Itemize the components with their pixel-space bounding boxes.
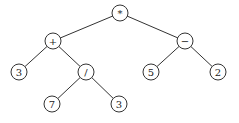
node-label: 3	[16, 67, 22, 78]
expression-tree: *+−3/5273	[0, 0, 239, 123]
tree-node: /	[78, 64, 94, 80]
tree-edge	[120, 13, 185, 41]
node-label: 2	[215, 67, 221, 78]
tree-node: 2	[210, 64, 226, 80]
node-label: 3	[116, 99, 122, 110]
tree-node: 3	[111, 96, 127, 112]
tree-edges	[19, 13, 218, 104]
node-label: 5	[148, 67, 154, 78]
tree-node: 5	[143, 64, 159, 80]
tree-nodes: *+−3/5273	[11, 5, 226, 112]
tree-node: 3	[11, 64, 27, 80]
node-label: −	[181, 36, 189, 47]
node-label: 7	[49, 99, 55, 110]
tree-node: −	[177, 33, 193, 49]
tree-node: +	[45, 33, 61, 49]
tree-edge	[53, 13, 120, 41]
tree-node: *	[112, 5, 128, 21]
tree-node: 7	[44, 96, 60, 112]
node-label: *	[118, 8, 123, 19]
node-label: +	[49, 36, 57, 47]
